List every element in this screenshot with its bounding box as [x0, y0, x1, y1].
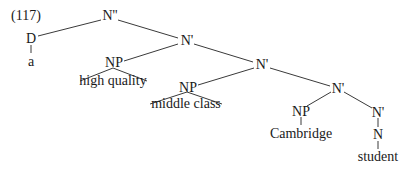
word-student: student [358, 150, 398, 164]
branch-nbar1-np1 [124, 44, 178, 61]
node-np-2: NP [179, 81, 197, 95]
node-nbar-1: N' [181, 34, 194, 48]
node-np-3: NP [292, 105, 310, 119]
syntax-tree-diagram: (117) N'' D a N' NP high quality N' NP m… [0, 0, 411, 172]
example-number: (117) [11, 9, 41, 23]
node-nbar-2: N' [256, 58, 269, 72]
branch-nbar2-np2 [198, 68, 254, 85]
node-root: N'' [102, 9, 117, 23]
branch-root-det [38, 20, 101, 36]
node-np-1: NP [105, 56, 123, 70]
word-cambridge: Cambridge [270, 127, 332, 141]
branch-nbar2-nbar3 [270, 68, 330, 86]
branch-root-nbar1 [118, 20, 178, 38]
branch-nbar1-nbar2 [194, 44, 253, 62]
branch-nbar3-np3 [307, 92, 331, 106]
node-head-n: N [373, 128, 383, 142]
node-nbar-3: N' [332, 82, 345, 96]
node-det: D [26, 32, 36, 46]
word-a: a [28, 55, 34, 69]
phrase-middle-class: middle class [151, 97, 221, 111]
tree-branches [0, 0, 411, 172]
phrase-high-quality: high quality [79, 74, 146, 88]
node-nbar-4: N' [372, 106, 385, 120]
branch-nbar3-nbar4 [344, 92, 372, 108]
